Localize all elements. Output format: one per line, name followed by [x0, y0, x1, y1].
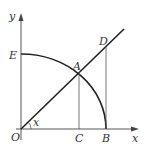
point-label-B: B: [101, 132, 110, 145]
point-label-A: A: [72, 60, 81, 73]
y-axis-arrow-icon: [19, 13, 24, 21]
ray-OD: [21, 29, 124, 129]
angle-arc-x: [28, 122, 31, 129]
y-axis-label: y: [8, 10, 16, 23]
x-axis-label: x: [132, 132, 139, 145]
point-label-D: D: [98, 35, 108, 48]
angle-label-x: x: [33, 116, 40, 129]
x-axis-arrow-icon: [131, 127, 139, 132]
point-label-E: E: [8, 49, 17, 62]
point-label-C: C: [75, 132, 84, 145]
trig-diagram: y x E A D O C B x: [0, 0, 148, 160]
point-label-O: O: [11, 131, 20, 144]
